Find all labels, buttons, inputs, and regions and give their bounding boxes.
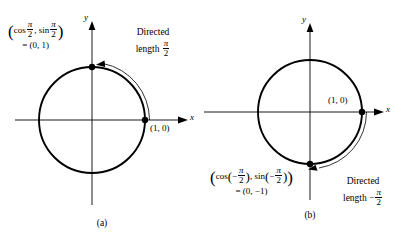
annotation-sign: − — [369, 193, 374, 203]
paren-close: ) — [58, 22, 64, 41]
pi-over-two-sin: π2 — [275, 166, 282, 185]
pi-over-two-sin: π2 — [50, 20, 57, 39]
pi-over-two-cos: π2 — [238, 166, 245, 185]
pi-over-two-cos: π2 — [27, 20, 34, 39]
panel-b: x y (1, 0) (cos(−π2), sin(−π2)) = (0, −1… — [204, 0, 408, 243]
minus-cos: − — [232, 171, 237, 181]
x-axis — [204, 109, 384, 116]
y-axis — [307, 23, 314, 200]
terminal-point-equals: = (0, 1) — [8, 41, 63, 50]
annotation-line-1: Directed — [113, 28, 193, 38]
panel-a-caption: (a) — [72, 219, 132, 229]
panel-b-caption: (b) — [280, 211, 340, 221]
annotation-line-2: length π2 — [113, 39, 193, 58]
sin-text: sin — [39, 25, 50, 35]
paren-close: ) — [287, 168, 293, 187]
x-axis-label: x — [386, 105, 390, 114]
unit-circle-figure: x y (cosπ2, sinπ2) = (0, 1) (1, 0) Direc… — [0, 0, 408, 243]
terminal-point-label: (cosπ2, sinπ2) = (0, 1) — [8, 20, 63, 51]
panel-a: x y (cosπ2, sinπ2) = (0, 1) (1, 0) Direc… — [0, 0, 204, 243]
directed-length-annotation: Directed length −π2 — [322, 177, 404, 207]
terminal-point-dot — [307, 161, 313, 167]
sin-text: sin — [254, 171, 265, 181]
pi-over-two-annotation: π2 — [375, 188, 382, 207]
initial-point-label: (1, 0) — [150, 124, 170, 133]
initial-point-dot — [359, 109, 365, 115]
annotation-line-2: length −π2 — [322, 188, 404, 207]
terminal-point-equals: = (0, −1) — [210, 187, 293, 196]
directed-arc — [308, 112, 367, 171]
y-axis-label: y — [84, 13, 88, 22]
terminal-point-dot — [89, 64, 95, 70]
cos-text: cos — [14, 25, 26, 35]
terminal-point-label: (cos(−π2), sin(−π2)) = (0, −1) — [210, 166, 293, 197]
directed-length-annotation: Directed length π2 — [113, 28, 193, 58]
initial-point-label: (1, 0) — [328, 96, 348, 105]
cos-text: cos — [216, 171, 228, 181]
annotation-line-1: Directed — [322, 177, 404, 187]
inner-paren-close-cos: ) — [246, 169, 250, 184]
minus-sin: − — [269, 171, 274, 181]
pi-over-two-annotation: π2 — [163, 39, 170, 58]
y-axis-label: y — [302, 15, 306, 24]
x-axis-label: x — [190, 113, 194, 122]
y-axis — [89, 21, 96, 205]
initial-point-dot — [142, 117, 148, 123]
